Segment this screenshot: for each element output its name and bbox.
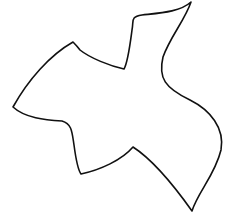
bird-outline-figure	[0, 0, 238, 217]
bird-outline-path	[13, 2, 222, 211]
drawing-canvas	[0, 0, 238, 217]
